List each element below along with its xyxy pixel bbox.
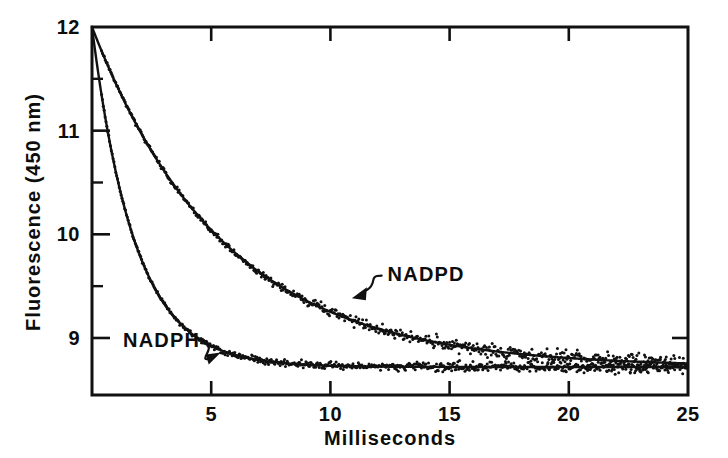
data-point [599,369,602,372]
y-tick-label-12: 12 [57,16,80,38]
data-point [619,362,622,365]
data-point [670,358,673,361]
data-point [682,357,685,360]
data-point [583,371,586,374]
data-point [472,344,475,347]
data-point [486,363,489,366]
data-point [547,358,550,361]
x-tick-label-25: 25 [676,403,699,425]
data-point [427,335,430,338]
data-point [368,363,371,366]
data-point [672,354,675,357]
data-point [409,330,412,333]
data-point [337,317,340,320]
data-point [512,362,515,365]
data-point [606,350,609,353]
curve-nadpd [92,27,688,363]
data-point [455,368,458,371]
nadph-arrow-head [206,352,221,364]
data-point [635,354,638,357]
data-point [448,363,451,366]
data-point [546,363,549,366]
data-point [499,369,502,372]
data-point [447,347,450,350]
data-point [424,362,427,365]
data-point [319,300,322,303]
data-point [453,342,456,345]
data-point [479,352,482,355]
data-point [393,337,396,340]
nadpd-arrow-head [352,287,367,300]
data-point [353,326,356,329]
data-point [476,342,479,345]
data-point [659,358,662,361]
data-point [536,360,539,363]
data-point [486,356,489,359]
annotation-nadpd: NADPD [352,263,465,301]
data-point [600,361,603,364]
data-point [427,361,430,364]
fitted-curves-layer [92,27,688,367]
data-point [458,359,461,362]
data-point [368,328,371,331]
data-point [379,369,382,372]
data-point [284,365,287,368]
data-point [564,348,567,351]
x-axis-title-label: Milliseconds [324,427,456,449]
data-point [524,356,527,359]
data-point [397,370,400,373]
data-point [624,368,627,371]
data-point [433,344,436,347]
data-point [494,345,497,348]
data-point [328,314,331,317]
y-tick-label-10: 10 [57,223,80,245]
data-point [335,309,338,312]
data-point [599,356,602,359]
y-axis-title-label: Fluorescence (450 nm) [22,93,44,331]
data-point [490,361,493,364]
data-point [468,369,471,372]
data-point [527,357,530,360]
data-point [546,347,549,350]
data-point [658,369,661,372]
data-point [357,317,360,320]
data-point [435,333,438,336]
data-point [617,371,620,374]
y-tick-label-group: 9101112 [57,16,80,349]
data-point [559,362,562,365]
data-point [490,353,493,356]
data-point [552,361,555,364]
figure-container: Fluorescence (450 nm) Milliseconds 91011… [0,0,728,458]
data-point [450,369,453,372]
data-point [667,371,670,374]
data-point [629,372,632,375]
series-label-nadpd: NADPD [388,263,465,285]
data-point [618,356,621,359]
data-point [469,352,472,355]
data-point [673,357,676,360]
data-point [331,308,334,311]
x-tick-label-5: 5 [205,403,217,425]
data-point [487,369,490,372]
data-point [541,361,544,364]
data-point [497,355,500,358]
y-tick-label-9: 9 [68,327,80,349]
data-point [354,315,357,318]
data-point [435,362,438,365]
x-axis-title: Milliseconds [324,427,456,449]
data-point [540,351,543,354]
data-point [631,353,634,356]
x-tick-label-15: 15 [438,403,461,425]
data-point [455,339,458,342]
data-point [564,360,567,363]
data-point [424,335,427,338]
data-point [614,373,617,376]
kinetics-decay-chart: Fluorescence (450 nm) Milliseconds 91011… [0,0,728,458]
data-point [283,358,286,361]
data-point [464,342,467,345]
data-point [576,349,579,352]
data-point [639,370,642,373]
data-point [323,367,326,370]
data-point [484,353,487,356]
data-point [518,370,521,373]
